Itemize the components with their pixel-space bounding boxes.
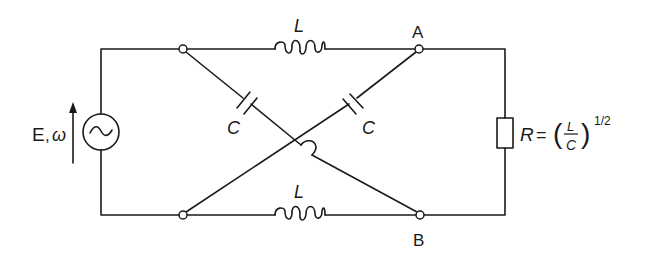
node-A (415, 45, 423, 53)
capacitor-left-label: C (227, 118, 241, 138)
left-branch (101, 49, 179, 215)
node-B-label: B (413, 231, 424, 250)
emf-arrow-icon (69, 102, 77, 163)
bottom-inductor-branch (187, 148, 505, 220)
resistor-equals: = (536, 125, 547, 145)
inductor-top-label: L (294, 16, 304, 36)
fraction-denominator: C (566, 137, 577, 153)
fraction-numerator: L (567, 119, 574, 134)
paren-close: ) (581, 118, 590, 149)
resistor-formula: R = ( L C ) 1/2 (520, 114, 611, 153)
node-bottom-left (179, 211, 187, 219)
source-label-omega: ω (52, 125, 66, 145)
node-B (416, 211, 424, 219)
paren-open: ( (553, 118, 563, 149)
inductor-bottom-label: L (294, 182, 304, 202)
resistor-label-R: R (520, 124, 534, 145)
capacitor-right-label: C (362, 118, 376, 138)
lattice-circuit-diagram: E , ω L L C C A B R (0, 0, 645, 258)
exponent: 1/2 (594, 114, 611, 128)
ac-source-icon (83, 114, 119, 150)
resistor-icon (497, 118, 513, 148)
node-top-left (179, 45, 187, 53)
node-A-label: A (412, 23, 424, 42)
source-label-sep: , (45, 126, 50, 145)
source-label-E: E (32, 124, 45, 145)
